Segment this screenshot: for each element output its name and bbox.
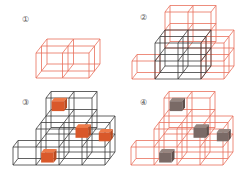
panel-1: ① xyxy=(22,15,100,78)
frame-edge xyxy=(89,46,95,53)
frame-edge xyxy=(63,71,69,78)
frame-edge xyxy=(63,46,69,53)
frame-edge xyxy=(160,66,165,73)
frame-edge xyxy=(68,39,74,46)
frame-edge xyxy=(201,37,206,44)
frame-edge xyxy=(182,152,187,159)
frame-edge xyxy=(160,48,165,55)
frame-edge xyxy=(211,24,216,31)
frame-edge xyxy=(183,48,188,55)
frame-edge xyxy=(183,66,188,73)
frame-edge xyxy=(69,110,74,117)
frame-edge xyxy=(211,6,216,13)
frame-edge xyxy=(105,159,110,166)
frame-edge xyxy=(211,42,216,49)
frame-edge xyxy=(36,71,42,78)
frame-edge xyxy=(206,48,211,55)
frame-edge xyxy=(178,73,183,80)
frame-edge xyxy=(82,159,87,166)
frame-edge xyxy=(82,141,87,148)
frame-edge xyxy=(177,123,182,130)
frame-edge xyxy=(224,37,229,44)
frame-edge xyxy=(201,55,206,62)
frame-edge xyxy=(223,159,228,166)
frame-edge xyxy=(155,37,160,44)
frame-edge xyxy=(223,141,228,148)
frame-edge xyxy=(95,39,101,46)
panel-3: ③ xyxy=(13,92,115,166)
solid-cube-face xyxy=(41,153,54,163)
frame-edge xyxy=(188,42,193,49)
frame-edge xyxy=(182,134,187,141)
frame-edge xyxy=(188,24,193,31)
frame-edge xyxy=(182,116,187,123)
solid-cube-face xyxy=(99,132,111,141)
frame-edge xyxy=(92,92,97,99)
frame-edge xyxy=(36,141,41,148)
frame-edge xyxy=(188,6,193,13)
frame-edge xyxy=(206,30,211,37)
solid-cube-face xyxy=(52,101,65,111)
frame-edge xyxy=(69,128,74,135)
solid-cube-face xyxy=(194,128,207,138)
frame-edge xyxy=(36,159,41,166)
frame-edge xyxy=(131,159,136,166)
frame-edge xyxy=(224,73,229,80)
solid-cube-face xyxy=(76,128,89,138)
panel-2-label: ② xyxy=(140,13,147,22)
panel-4: ④ xyxy=(131,92,233,166)
frame-edge xyxy=(87,152,92,159)
frame-edge xyxy=(178,37,183,44)
frame-edge xyxy=(87,116,92,123)
solid-cube-face xyxy=(159,153,172,163)
frame-edge xyxy=(132,73,137,80)
frame-edge xyxy=(164,92,169,99)
panel-3-solid-cubes xyxy=(41,98,113,163)
frame-edge xyxy=(132,55,137,62)
frame-edge xyxy=(46,110,51,117)
diagram-canvas: ① ② ③ ④ xyxy=(0,0,237,172)
solid-cube-face xyxy=(217,132,229,141)
panel-1-label: ① xyxy=(22,15,29,24)
frame-edge xyxy=(178,55,183,62)
frame-edge xyxy=(13,159,18,166)
frame-edge xyxy=(68,64,74,71)
frame-edge xyxy=(200,141,205,148)
frame-edge xyxy=(89,71,95,78)
frame-edge xyxy=(159,116,164,123)
frame-edge xyxy=(187,110,192,117)
frame-edge xyxy=(187,128,192,135)
frame-edge xyxy=(154,123,159,130)
frame-edge xyxy=(164,110,169,117)
panel-4-solid-cubes xyxy=(159,98,231,163)
frame-edge xyxy=(59,123,64,130)
frame-edge xyxy=(229,30,234,37)
frame-edge xyxy=(154,159,159,166)
frame-edge xyxy=(155,55,160,62)
frame-edge xyxy=(46,128,51,135)
solid-cube-face xyxy=(170,101,183,111)
frame-edge xyxy=(165,6,170,13)
frame-edge xyxy=(210,92,215,99)
frame-edge xyxy=(229,48,234,55)
frame-edge xyxy=(177,159,182,166)
frame-edge xyxy=(205,116,210,123)
frame-edge xyxy=(223,123,228,130)
frame-edge xyxy=(92,128,97,135)
frame-edge xyxy=(92,110,97,117)
frame-edge xyxy=(229,66,234,73)
frame-edge xyxy=(41,134,46,141)
frame-edge xyxy=(155,73,160,80)
panel-3-label: ③ xyxy=(22,98,29,107)
frame-edge xyxy=(154,141,159,148)
frame-edge xyxy=(228,152,233,159)
frame-edge xyxy=(228,116,233,123)
frame-edge xyxy=(59,141,64,148)
frame-edge xyxy=(210,128,215,135)
frame-edge xyxy=(42,39,48,46)
frame-edge xyxy=(177,141,182,148)
frame-edge xyxy=(36,46,42,53)
panel-4-label: ④ xyxy=(140,98,147,107)
frame-edge xyxy=(36,123,41,130)
frame-edge xyxy=(201,73,206,80)
